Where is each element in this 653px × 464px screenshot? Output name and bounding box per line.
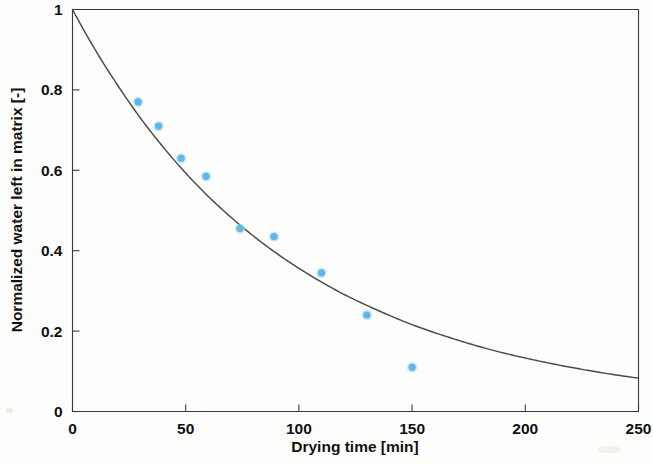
data-point [409,364,416,371]
x-axis-title: Drying time [min] [291,438,418,455]
data-point-markers [133,97,417,373]
data-point [236,225,243,232]
data-point [178,155,185,162]
y-tick-label: 1 [54,1,63,18]
x-axis-tick-labels: 050100150200250 [68,420,651,437]
data-point [363,311,370,318]
data-point [155,122,162,129]
data-point [135,98,142,105]
x-tick-label: 150 [399,420,425,437]
y-axis-title: Normalized water left in matrix [-] [8,88,25,333]
y-axis-tick-labels: 00.20.40.60.81 [41,1,63,420]
x-tick-label: 0 [68,420,77,437]
chart-figure: 00.20.40.60.81 050100150200250 Drying ti… [0,0,653,464]
data-point [318,269,325,276]
y-tick-label: 0.8 [41,81,63,98]
data-point [270,233,277,240]
y-tick-label: 0.6 [41,162,63,179]
data-point [202,173,209,180]
x-tick-label: 250 [626,420,652,437]
axes-frame [73,10,639,412]
scatter-plot-canvas: 00.20.40.60.81 050100150200250 Drying ti… [0,0,653,464]
y-tick-label: 0.4 [41,242,63,259]
y-axis-tick-marks [73,10,80,412]
model-fit-curve [73,10,639,379]
x-axis-tick-marks [73,405,639,412]
x-tick-label: 50 [177,420,194,437]
x-tick-label: 200 [512,420,538,437]
x-tick-label: 100 [286,420,312,437]
y-tick-label: 0.2 [41,323,63,340]
y-tick-label: 0 [54,403,63,420]
